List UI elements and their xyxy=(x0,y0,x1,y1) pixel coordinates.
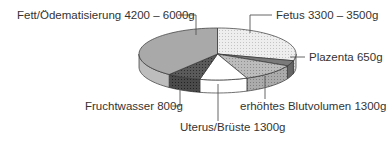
label-fruchtwasser: Fruchtwasser 800g xyxy=(85,100,183,112)
label-blutvolumen: erhöhtes Blutvolumen 1300g xyxy=(240,100,386,112)
pie-chart: Fett/Ödematisierung 4200 – 6000gFetus 33… xyxy=(0,0,388,142)
slice-side-uterus xyxy=(200,78,247,93)
label-plazenta: Plazenta 650g xyxy=(309,51,383,63)
label-fetus: Fetus 3300 – 3500g xyxy=(276,9,378,21)
label-uterus: Uterus/Brüste 1300g xyxy=(180,121,285,133)
leader-line-fetus xyxy=(250,15,272,33)
pie-top-faces xyxy=(139,28,296,80)
label-fett: Fett/Ödematisierung 4200 – 6000g xyxy=(17,9,195,21)
